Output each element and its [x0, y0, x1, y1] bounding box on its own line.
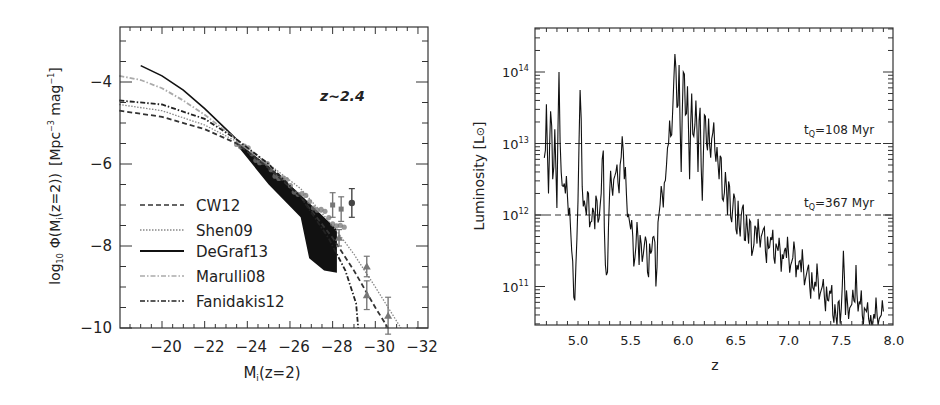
plot-frame	[535, 28, 893, 325]
luminosity-function-panel: −20−22−24−26−28−30−32−4−6−8−10 z~2.4 CW1…	[0, 0, 470, 405]
legend-label: DeGraf13	[196, 243, 268, 261]
data-point-triangle	[363, 291, 371, 298]
luminosity-history-panel: 5.05.56.06.57.07.58.01011101210131014 tQ…	[470, 0, 940, 405]
x-tick-label: 5.0	[568, 333, 589, 348]
x-tick-label: −28	[321, 338, 353, 356]
x-tick-label: 5.5	[620, 333, 641, 348]
x-tick-label: −22	[193, 338, 225, 356]
legend: CW12Shen09DeGraf13Marulli08Fanidakis12	[140, 197, 285, 311]
data-point-circle	[349, 200, 355, 206]
y-tick-label: −10	[80, 319, 112, 337]
x-tick-label: −24	[235, 338, 267, 356]
legend-label: CW12	[196, 197, 240, 215]
axis-ticks	[535, 28, 893, 325]
legend-item-degraf13: DeGraf13	[140, 243, 268, 261]
y-tick-label: 1014	[502, 64, 529, 80]
reference-label-367myr: tQ=367 Myr	[804, 196, 874, 212]
y-tick-label: −4	[90, 73, 112, 91]
y-tick-label: 1012	[502, 207, 529, 223]
data-point-triangle	[363, 263, 371, 270]
tick-labels: −20−22−24−26−28−30−32−4−6−8−10	[80, 73, 437, 356]
luminosity-function-chart: −20−22−24−26−28−30−32−4−6−8−10 z~2.4 CW1…	[0, 0, 470, 405]
y-axis-label: log10Φ(Mi(z=2))[Mpc−3 mag−1]	[47, 67, 65, 284]
x-tick-label: −26	[278, 338, 310, 356]
reference-label-108myr: tQ=108 Myr	[804, 123, 874, 139]
observed-data-points	[330, 189, 392, 335]
legend-label: Shen09	[196, 222, 253, 240]
legend-label: Marulli08	[196, 268, 265, 286]
luminosity-curve	[544, 54, 883, 325]
model-curves	[119, 66, 401, 328]
x-tick-label: 8.0	[884, 333, 905, 348]
luminosity-line	[544, 54, 883, 325]
legend-label: Fanidakis12	[196, 293, 285, 311]
y-tick-label: 1011	[502, 279, 529, 295]
series-marulli08	[119, 76, 239, 142]
x-axis-label: Mi(z=2)	[243, 364, 300, 383]
legend-item-fanidakis12: Fanidakis12	[140, 293, 285, 311]
sun-symbol-icon: ⊙	[474, 127, 487, 136]
x-tick-label: −30	[363, 338, 395, 356]
x-tick-label: 6.5	[726, 333, 747, 348]
data-point-square	[339, 207, 344, 212]
y-tick-label: −8	[90, 237, 112, 255]
legend-item-shen09: Shen09	[140, 222, 253, 240]
y-axis-label: Luminosity [L⊙]	[471, 122, 487, 231]
x-tick-label: 7.5	[831, 333, 852, 348]
legend-item-marulli08: Marulli08	[140, 268, 265, 286]
x-axis-label: z	[711, 357, 718, 373]
legend-item-cw12: CW12	[140, 197, 240, 215]
y-tick-label: 1013	[502, 136, 529, 152]
x-tick-label: −32	[406, 338, 438, 356]
y-tick-label: −6	[90, 155, 112, 173]
x-tick-label: −20	[150, 338, 182, 356]
redshift-annotation: z~2.4	[319, 88, 365, 104]
x-tick-label: 7.0	[778, 333, 799, 348]
data-point-square	[330, 203, 335, 208]
luminosity-history-chart: 5.05.56.06.57.07.58.01011101210131014 tQ…	[470, 0, 940, 405]
x-tick-label: 6.0	[673, 333, 694, 348]
